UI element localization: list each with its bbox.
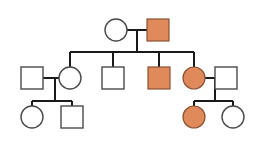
pedigree-chart — [0, 0, 259, 142]
pedigree-symbol-male-unaffected — [215, 67, 237, 89]
pedigree-symbol-female-unaffected — [222, 106, 244, 128]
pedigree-symbol-female-unaffected — [21, 106, 43, 128]
pedigree-symbol-male-unaffected — [21, 67, 43, 89]
symbol-layer — [21, 19, 244, 128]
pedigree-symbol-male-affected — [147, 19, 169, 41]
pedigree-symbol-male-unaffected — [61, 106, 83, 128]
pedigree-symbol-female-affected — [183, 106, 205, 128]
pedigree-symbol-male-unaffected — [102, 67, 124, 89]
pedigree-symbol-female-unaffected — [59, 67, 81, 89]
pedigree-canvas — [0, 0, 259, 142]
pedigree-symbol-male-affected — [148, 67, 170, 89]
pedigree-symbol-female-affected — [183, 67, 205, 89]
pedigree-symbol-female-unaffected — [105, 19, 127, 41]
connector-layer — [32, 30, 233, 106]
